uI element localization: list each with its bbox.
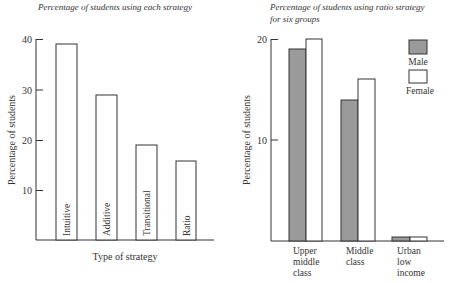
left-bars: Intuitive Additive Transitional Ratio	[56, 44, 196, 240]
bar-label-ratio: Ratio	[182, 215, 192, 236]
bar-label-intuitive: Intuitive	[62, 204, 72, 236]
left-tick-20: 20	[22, 135, 32, 146]
left-y-label: Percentage of students	[6, 95, 17, 185]
left-y-ticks: 40 30 20 10	[22, 34, 43, 196]
right-chart: Percentage of students using ratio strat…	[241, 2, 444, 278]
legend-swatch-male	[409, 40, 427, 54]
bar-middle-female	[358, 79, 375, 241]
bar-label-additive: Additive	[102, 203, 112, 236]
left-chart: Percentage of students using each strate…	[6, 2, 214, 262]
cat-urban-2: low	[397, 257, 411, 267]
right-chart-title-line1: Percentage of students using ratio strat…	[269, 2, 424, 12]
legend-label-female: Female	[406, 86, 434, 96]
bar-urban-male	[392, 237, 410, 241]
bar-middle-male	[341, 100, 358, 241]
bar-urban-female	[410, 237, 427, 241]
legend: Male Female	[406, 40, 434, 96]
right-y-label: Percentage of students	[241, 95, 252, 185]
cat-upper-middle-2: middle	[293, 257, 319, 267]
cat-urban-1: Urban	[397, 246, 421, 256]
legend-swatch-female	[409, 70, 427, 83]
right-tick-10: 10	[257, 135, 267, 146]
left-tick-10: 10	[22, 185, 32, 196]
right-x-categories: Upper middle class Middle class Urban lo…	[293, 246, 425, 278]
left-tick-30: 30	[22, 85, 32, 96]
left-tick-40: 40	[22, 34, 32, 45]
figure: Percentage of students using each strate…	[0, 0, 455, 283]
bar-upper-middle-male	[289, 49, 306, 241]
left-chart-title: Percentage of students using each strate…	[37, 2, 192, 12]
cat-middle-1: Middle	[346, 246, 373, 256]
cat-middle-2: class	[346, 257, 365, 267]
bar-label-transitional: Transitional	[142, 190, 152, 236]
cat-upper-middle-3: class	[293, 268, 312, 278]
right-chart-title-line2: for six groups	[270, 14, 320, 24]
left-x-label: Type of strategy	[93, 251, 158, 262]
right-tick-20: 20	[257, 34, 267, 45]
legend-label-male: Male	[408, 57, 428, 67]
bar-upper-middle-female	[306, 39, 322, 241]
cat-urban-3: income	[397, 268, 425, 278]
cat-upper-middle-1: Upper	[293, 246, 318, 256]
right-y-ticks: 20 10	[257, 34, 278, 146]
right-bars	[289, 39, 427, 241]
